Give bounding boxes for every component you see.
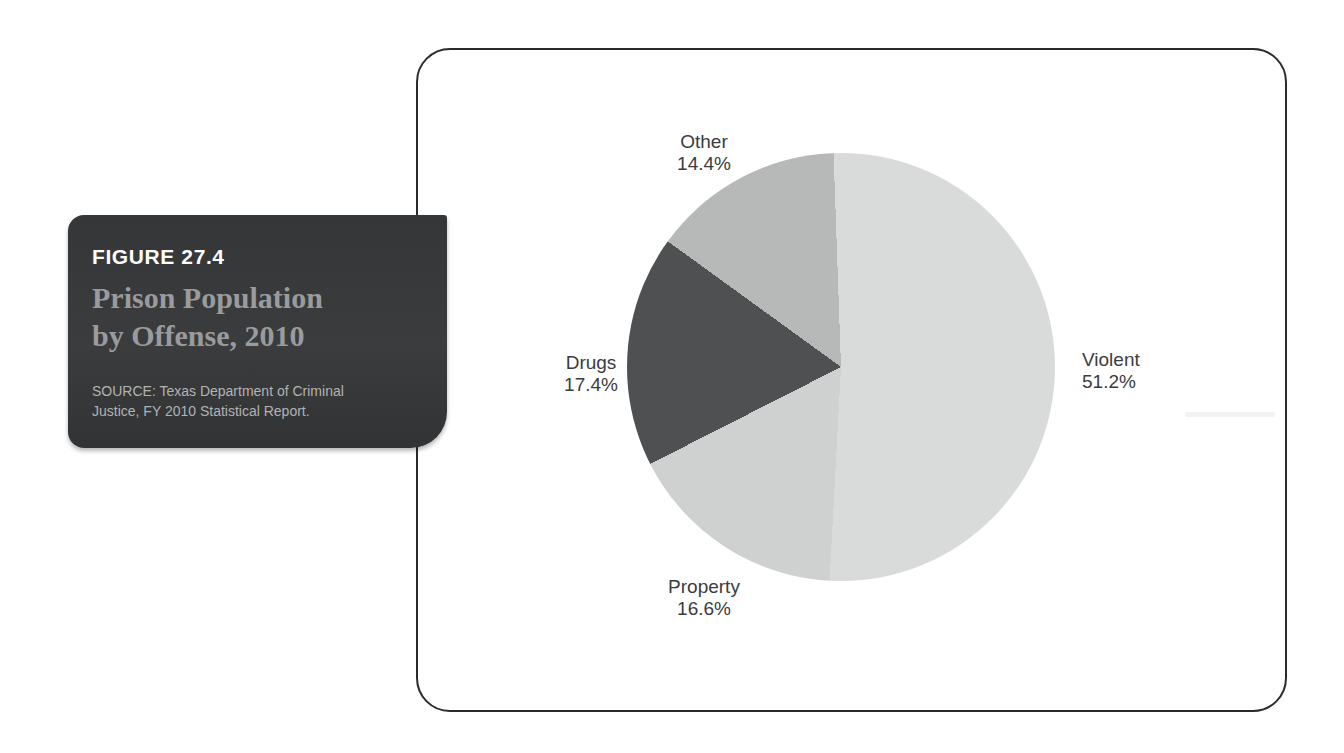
- figure-source-line2: Justice, FY 2010 Statistical Report.: [92, 401, 427, 421]
- pie-label-drugs-value: 17.4%: [526, 374, 656, 396]
- pie-label-violent: Violent 51.2%: [1082, 349, 1140, 393]
- scan-artifact: [1185, 412, 1275, 417]
- figure-title: Prison Population by Offense, 2010: [92, 279, 427, 355]
- figure-title-line2: by Offense, 2010: [92, 317, 427, 355]
- figure-source-line1: SOURCE: Texas Department of Criminal: [92, 381, 427, 401]
- textbook-figure-page: FIGURE 27.4 Prison Population by Offense…: [0, 0, 1344, 753]
- pie-label-violent-name: Violent: [1082, 349, 1140, 371]
- pie-label-other-value: 14.4%: [639, 153, 769, 175]
- pie-label-drugs: Drugs 17.4%: [526, 352, 656, 396]
- figure-title-line1: Prison Population: [92, 279, 427, 317]
- pie-label-other: Other 14.4%: [639, 131, 769, 175]
- figure-caption-box: FIGURE 27.4 Prison Population by Offense…: [68, 215, 447, 448]
- pie-label-property-name: Property: [639, 576, 769, 598]
- pie-label-drugs-name: Drugs: [526, 352, 656, 374]
- figure-source: SOURCE: Texas Department of Criminal Jus…: [92, 381, 427, 421]
- figure-number: FIGURE 27.4: [92, 245, 427, 269]
- pie-label-violent-value: 51.2%: [1082, 371, 1140, 393]
- pie-label-property-value: 16.6%: [639, 598, 769, 620]
- pie-chart: [627, 153, 1055, 581]
- pie-label-property: Property 16.6%: [639, 576, 769, 620]
- pie-label-other-name: Other: [639, 131, 769, 153]
